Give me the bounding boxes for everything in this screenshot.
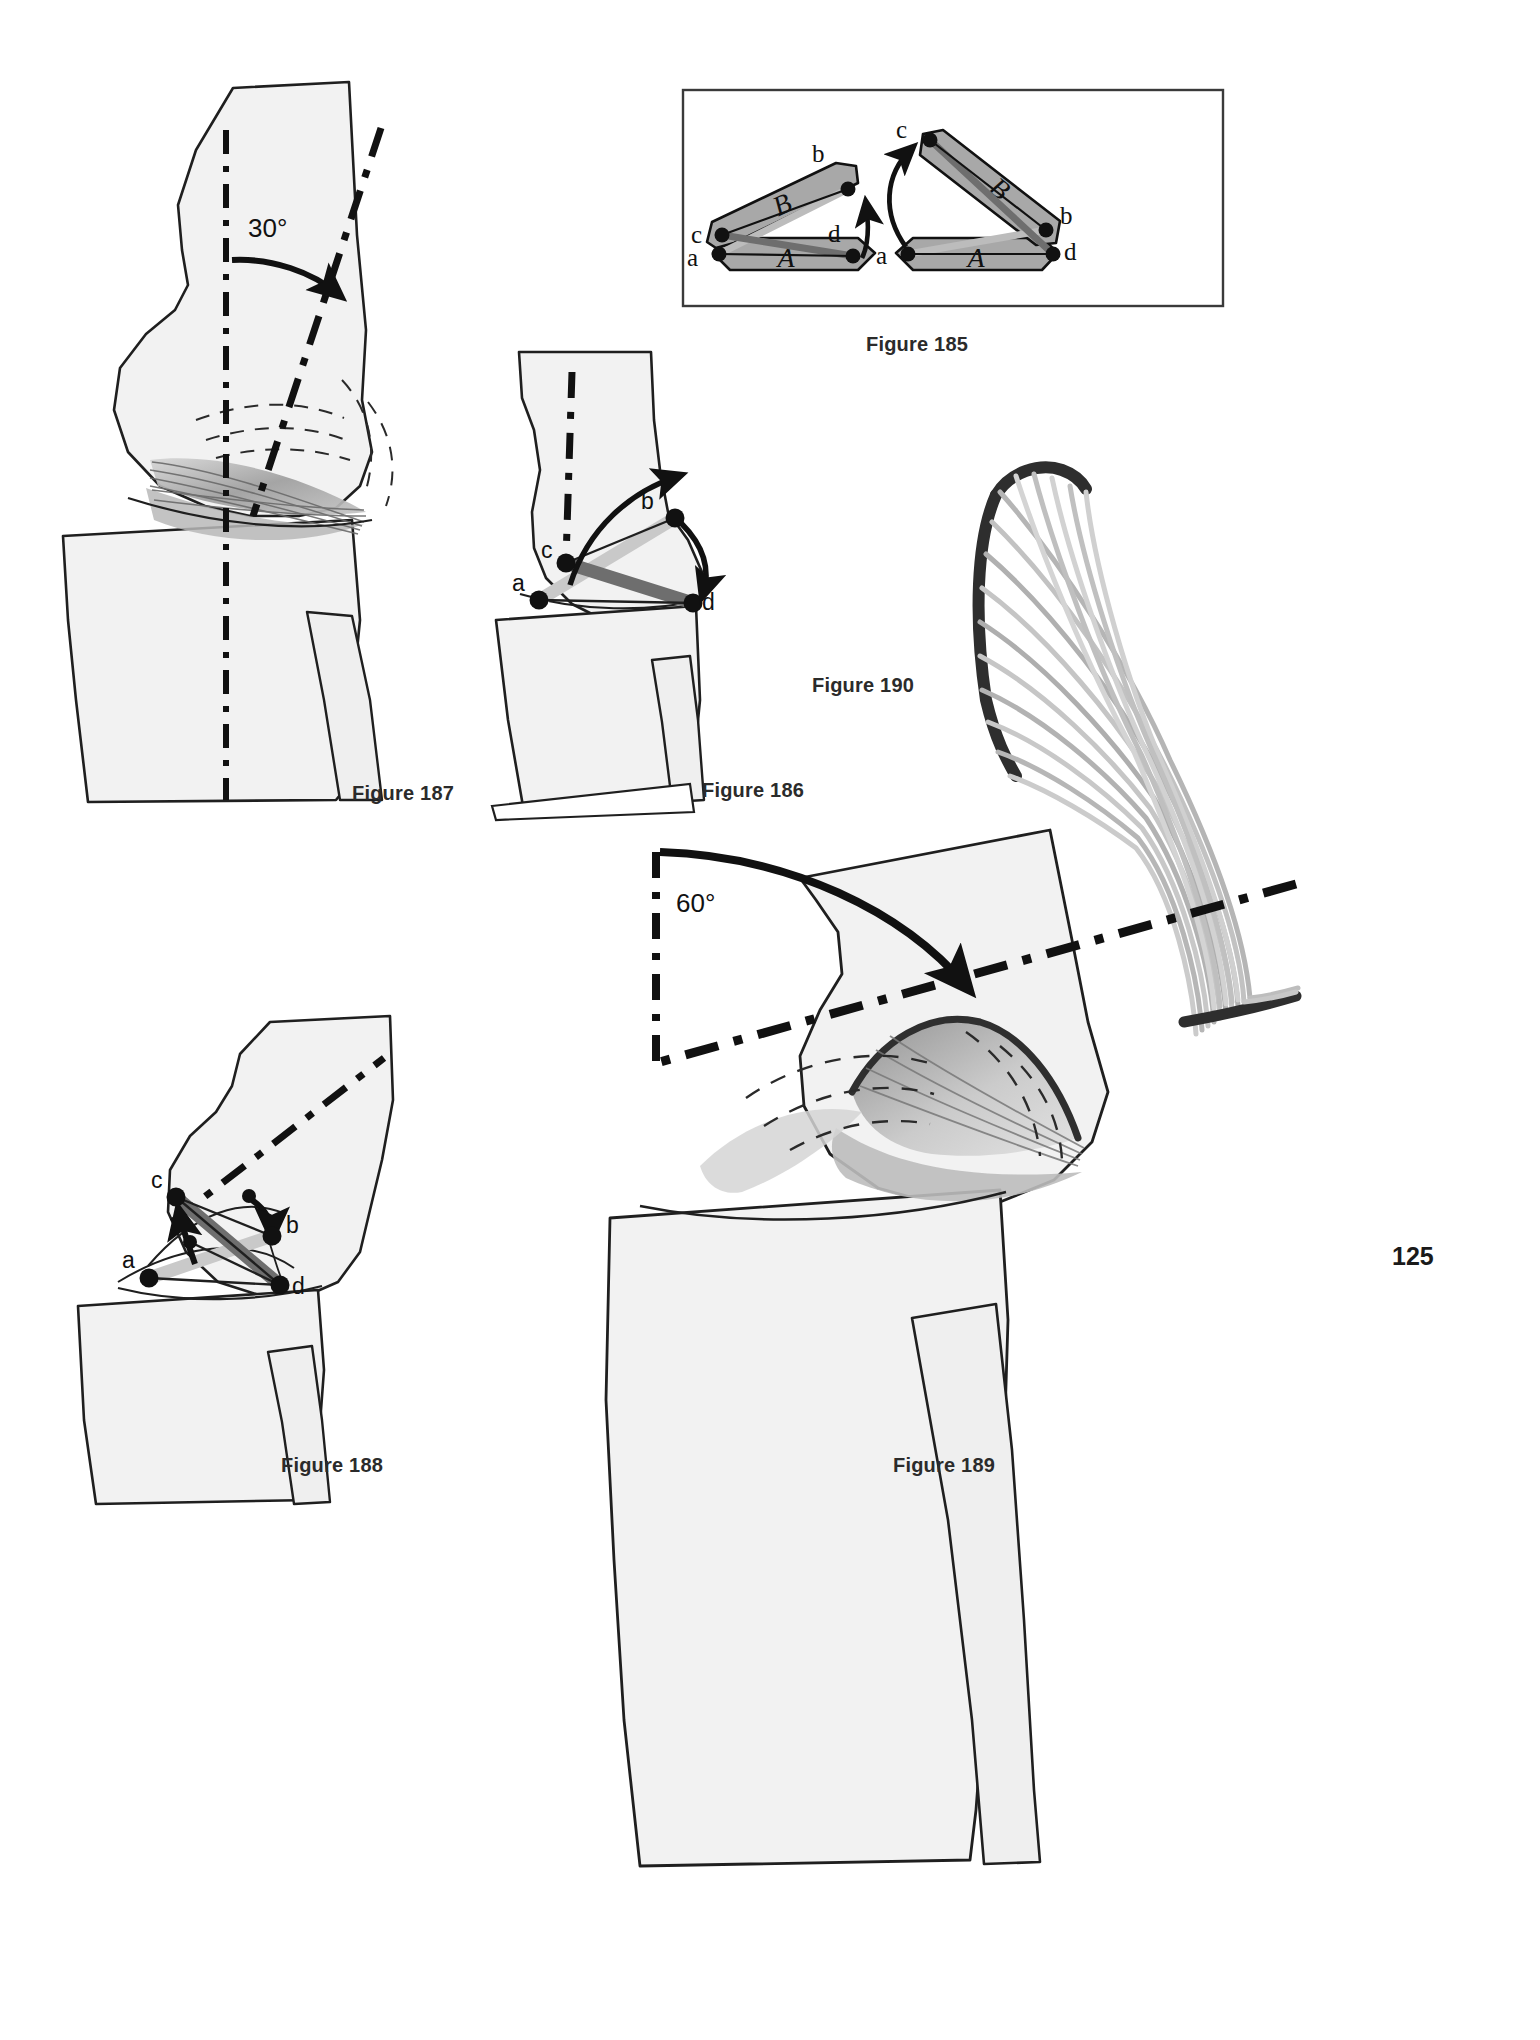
figure-187-drawing: 30°: [63, 82, 392, 802]
label-a-185-left: a: [687, 244, 698, 271]
point-d-185-left: [846, 249, 861, 264]
label-c-186: c: [541, 537, 553, 563]
bar-A-label-185-left: A: [775, 242, 795, 273]
fibula-outline-189: [912, 1304, 1040, 1864]
caption-figure-185: Figure 185: [866, 333, 968, 356]
point-c-185-right: [923, 133, 938, 148]
link-a-b-185-right: [908, 230, 1046, 254]
illustration-layer: 30°: [0, 0, 1540, 2040]
cruciate-sheet-189: [852, 1019, 1078, 1155]
angle-arrow-189: [660, 852, 966, 986]
motion-arcs-189: [746, 1032, 1062, 1160]
label-a-186: a: [512, 570, 525, 596]
bar-B-label-185-left: B: [768, 187, 797, 222]
point-d-188: [271, 1276, 290, 1295]
arrow-b-to-d-186: [681, 523, 706, 594]
point-c-186: [557, 554, 576, 573]
angle-label-187: 30°: [248, 213, 287, 243]
joint-flap-189: [700, 1109, 862, 1193]
condyle-arcs-188: [118, 1207, 294, 1282]
bar-B-185-right: [920, 130, 1060, 245]
proximal-attachment-190: [979, 495, 1016, 776]
label-d-188: d: [292, 1273, 305, 1299]
fibre-fan-distal-190: [1244, 988, 1298, 1002]
label-a-188: a: [122, 1247, 135, 1273]
femur-outline-187: [114, 82, 372, 516]
femoral-axis-186: [566, 372, 572, 560]
point-aux-188: [183, 1235, 197, 1249]
ligament-light-186: [539, 518, 675, 600]
label-d-185-right: d: [1064, 238, 1077, 265]
label-a-185-right: a: [876, 242, 887, 269]
fibula-outline-188: [268, 1346, 330, 1504]
label-d-185-left: d: [828, 220, 841, 247]
ligament-dark-186: [566, 563, 693, 603]
fibula-outline-187: [307, 612, 382, 800]
page-number: 125: [1392, 1242, 1434, 1271]
point-c-188: [167, 1188, 186, 1207]
bar-A-185-left: [713, 238, 875, 270]
cruciate-sheet-187: [150, 458, 366, 514]
figure-188-drawing: a b c d: [78, 1016, 393, 1504]
label-b-186: b: [641, 488, 654, 514]
figure-189-drawing: 60°: [606, 830, 1296, 1866]
link-a-b-185-left: [719, 189, 848, 254]
cruciate-fibres-189: [860, 1036, 1084, 1166]
figure-185-drawing: A B a: [683, 90, 1223, 306]
angle-arrow-187: [232, 260, 338, 294]
bar-A-label-185-right: A: [965, 242, 985, 273]
distal-attachment-190: [1184, 996, 1296, 1022]
tibia-outline-186: [496, 606, 700, 812]
figure-185-right: A B a: [876, 116, 1077, 273]
cruciate-fibres-187: [150, 462, 366, 534]
angle-label-189: 60°: [676, 888, 715, 918]
femur-outline-186: [519, 352, 702, 626]
linkage-frame-185-left: [719, 189, 853, 256]
tibia-outline-189: [606, 1190, 1008, 1866]
label-d-186: d: [702, 589, 715, 615]
joint-line-187: [128, 498, 372, 526]
point-b-186: [666, 509, 685, 528]
figure-185-box: [683, 90, 1223, 306]
arrow-c-to-b-186: [570, 476, 678, 585]
point-a-185-right: [901, 247, 916, 262]
femur-outline-188: [168, 1016, 393, 1296]
femoral-axis-187: [253, 128, 381, 516]
leader-b-188: [270, 1244, 284, 1286]
figure-page: 30°: [0, 0, 1540, 2040]
cruciate-sheet-lower-189: [832, 1128, 1082, 1201]
label-c-188: c: [151, 1167, 163, 1193]
linkage-frame-185-right: [908, 140, 1053, 254]
fibre-fan-190: [980, 474, 1250, 1034]
arrow-to-b-188: [252, 1200, 272, 1234]
cruciate-sheet-187-lower: [146, 488, 364, 540]
femur-outline-189: [800, 830, 1108, 1204]
figure-186-drawing: a b c d: [492, 352, 715, 820]
point-aux2-188: [242, 1189, 256, 1203]
bar-A-185-right: [896, 238, 1058, 270]
cruciate-sheet-rim-189: [852, 1019, 1078, 1138]
link-c-d-185-left: [722, 235, 853, 256]
point-c-185-left: [715, 228, 730, 243]
point-a-188: [140, 1269, 159, 1288]
joint-line-189: [640, 1192, 1006, 1220]
caption-figure-188: Figure 188: [281, 1454, 383, 1477]
figure-190-drawing: [979, 467, 1298, 1034]
proximal-attachment-top-190: [996, 467, 1086, 495]
arrow-to-c-188: [179, 1212, 195, 1264]
femoral-axis-189: [660, 884, 1296, 1062]
caption-figure-189: Figure 189: [893, 1454, 995, 1477]
label-b-188: b: [286, 1212, 299, 1238]
caption-figure-190: Figure 190: [812, 674, 914, 697]
joint-line-186: [520, 594, 700, 608]
ligament-light-188: [149, 1236, 272, 1278]
point-a-186: [530, 591, 549, 610]
point-d-186: [684, 594, 703, 613]
label-b-185-right: b: [1060, 202, 1073, 229]
point-b-185-left: [841, 182, 856, 197]
point-b-185-right: [1039, 223, 1054, 238]
bar-B-label-185-right: B: [984, 171, 1017, 206]
link-c-d-185-right: [930, 140, 1053, 254]
joint-line-188: [118, 1286, 322, 1299]
linkage-frame-186: [539, 518, 693, 603]
